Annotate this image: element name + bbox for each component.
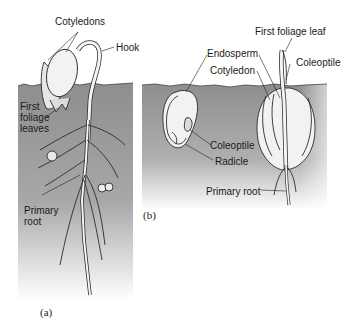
diagram-illustration (0, 0, 362, 326)
label-radicle: Radicle (215, 156, 248, 167)
label-first-foliage-leaves-line2: foliage (20, 112, 49, 123)
label-primary-root-line1: Primary (24, 205, 58, 216)
label-hook: Hook (116, 42, 139, 53)
label-coleoptile-right: Coleoptile (296, 57, 340, 68)
label-first-foliage-leaves-line1: First (20, 101, 39, 112)
label-coleoptile-left: Coleoptile (210, 140, 254, 151)
caption-panel-a: (a) (40, 306, 52, 318)
label-cotyledon: Cotyledon (210, 65, 255, 76)
seed-germination-figure: Cotyledons Hook First foliage leaves Pri… (0, 0, 362, 326)
label-endosperm: Endosperm (207, 48, 258, 59)
caption-panel-b: (b) (143, 209, 156, 221)
label-cotyledons: Cotyledons (55, 16, 105, 27)
label-primary-root-line2: root (24, 216, 41, 227)
label-first-foliage-leaf: First foliage leaf (255, 26, 326, 37)
label-first-foliage-leaves-line3: leaves (20, 123, 49, 134)
label-primary-root: Primary root (206, 186, 260, 197)
